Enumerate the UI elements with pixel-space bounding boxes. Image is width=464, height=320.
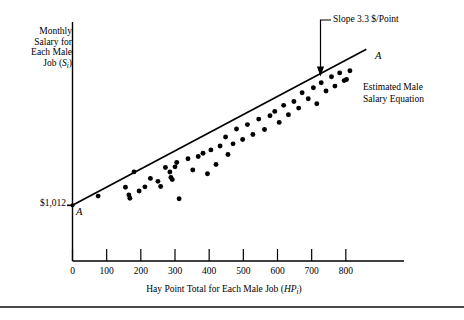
data-point — [170, 177, 175, 182]
data-point — [173, 164, 178, 169]
data-point — [167, 170, 172, 175]
equation-annotation-line1: Estimated Male — [363, 82, 423, 92]
data-point — [196, 154, 201, 159]
data-point — [127, 196, 132, 201]
equation-annotation: Estimated MaleSalary Equation — [363, 82, 424, 106]
data-point — [158, 184, 163, 189]
x-tick-label-300: 300 — [160, 266, 190, 276]
data-point — [268, 113, 273, 118]
x-tick-label-400: 400 — [194, 266, 224, 276]
data-point — [262, 127, 267, 132]
data-point — [319, 80, 324, 85]
data-point — [291, 99, 296, 104]
data-point — [142, 184, 147, 189]
slope-leader-line — [321, 20, 332, 68]
y-axis-label: Monthly Salary for Each Male Job (Si) — [14, 26, 72, 70]
x-tick-label-600: 600 — [263, 266, 293, 276]
data-point — [223, 135, 228, 140]
x-tick-label-0: 0 — [58, 266, 88, 276]
data-point — [314, 101, 319, 106]
data-point — [205, 171, 210, 176]
slope-annotation: Slope 3.3 $/Point — [333, 14, 399, 25]
figure-container: Monthly Salary for Each Male Job (Si) Ha… — [0, 0, 464, 320]
data-point — [281, 103, 286, 108]
scatter-points — [96, 68, 353, 201]
data-point — [201, 151, 206, 156]
data-point — [186, 156, 191, 161]
x-tick-label-700: 700 — [297, 266, 327, 276]
data-point — [218, 144, 223, 149]
x-tick-label-800: 800 — [331, 266, 361, 276]
x-axis-ticks — [73, 249, 346, 261]
x-tick-label-100: 100 — [92, 266, 122, 276]
bottom-divider — [0, 306, 464, 308]
data-point — [137, 189, 142, 194]
data-point — [300, 90, 305, 95]
x-tick-label-200: 200 — [126, 266, 156, 276]
data-point — [250, 132, 255, 137]
x-axis-label: Hay Point Total for Each Male Job (HPi) — [84, 284, 364, 296]
data-point — [123, 185, 128, 190]
data-point — [344, 77, 349, 82]
data-point — [329, 74, 334, 79]
line-label-upper: A — [375, 50, 381, 62]
data-point — [190, 168, 195, 173]
data-point — [311, 85, 316, 90]
data-point — [256, 117, 261, 122]
data-point — [231, 141, 236, 146]
line-label-lower: A — [76, 206, 82, 218]
data-point — [245, 122, 250, 127]
data-point — [163, 165, 168, 170]
data-point — [214, 162, 219, 167]
data-point — [296, 106, 301, 111]
data-point — [234, 127, 239, 132]
regression-line — [73, 49, 367, 205]
data-point — [174, 160, 179, 165]
data-point — [332, 84, 337, 89]
data-point — [96, 194, 101, 199]
data-point — [226, 152, 231, 157]
data-point — [306, 96, 311, 101]
data-point — [277, 120, 282, 125]
intercept-label: $1,012 — [22, 198, 66, 209]
data-point — [155, 179, 160, 184]
data-point — [132, 169, 137, 174]
data-point — [324, 89, 329, 94]
data-point — [337, 70, 342, 75]
data-point — [286, 112, 291, 117]
x-tick-label-500: 500 — [228, 266, 258, 276]
data-point — [208, 147, 213, 152]
data-point — [148, 176, 153, 181]
data-point — [177, 196, 182, 201]
data-point — [272, 109, 277, 114]
equation-annotation-line2: Salary Equation — [363, 94, 424, 104]
data-point — [347, 68, 352, 73]
data-point — [240, 137, 245, 142]
